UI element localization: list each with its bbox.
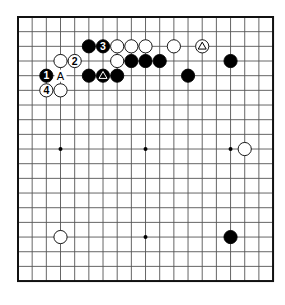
white-stone: [111, 40, 124, 53]
black-stone: 1: [40, 69, 53, 82]
black-stone: [82, 69, 95, 82]
black-stone: [96, 69, 109, 82]
move-number: 3: [100, 40, 106, 52]
point-labels: A: [55, 70, 67, 82]
black-stone: [139, 54, 152, 67]
move-number: 4: [43, 84, 49, 96]
black-stone: [82, 40, 95, 53]
white-stone: [139, 40, 152, 53]
white-stone: [238, 142, 251, 155]
move-number: 1: [43, 69, 49, 81]
black-stone: [181, 69, 194, 82]
white-stone: [54, 84, 67, 97]
black-stone: [153, 54, 166, 67]
white-stone: 4: [40, 84, 53, 97]
white-stone: [111, 54, 124, 67]
star-point: [59, 147, 63, 151]
white-stone: [54, 230, 67, 243]
white-stone: [167, 40, 180, 53]
black-stone: [125, 54, 138, 67]
star-point: [144, 235, 148, 239]
point-label: A: [57, 70, 65, 82]
black-stone: [224, 54, 237, 67]
black-stone: 3: [96, 40, 109, 53]
move-number: 2: [72, 55, 78, 67]
go-board: A 3214: [0, 0, 285, 305]
black-stone: [111, 69, 124, 82]
white-stone: 2: [68, 54, 81, 67]
white-stone: [125, 40, 138, 53]
star-point: [229, 147, 233, 151]
star-point: [144, 147, 148, 151]
black-stone: [224, 230, 237, 243]
white-stone: [196, 40, 209, 53]
white-stone: [54, 54, 67, 67]
